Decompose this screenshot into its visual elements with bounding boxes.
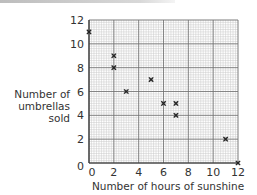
y-tick-label: 10	[70, 38, 84, 51]
y-tick-label: 4	[77, 109, 84, 122]
data-point	[149, 77, 153, 81]
data-point	[174, 101, 178, 105]
scatter-chart: 024681012024681012	[0, 0, 257, 195]
x-tick-label: 0	[89, 166, 96, 179]
data-point	[124, 89, 128, 93]
data-point	[112, 65, 116, 69]
y-tick-label: 0	[77, 160, 84, 173]
x-tick-label: 4	[135, 166, 142, 179]
data-point	[161, 101, 165, 105]
x-tick-label: 12	[231, 166, 245, 179]
data-point	[87, 30, 91, 34]
y-tick-label: 6	[77, 86, 84, 99]
data-point	[174, 113, 178, 117]
y-tick-label: 12	[70, 14, 84, 27]
x-tick-label: 10	[206, 166, 220, 179]
y-tick-label: 2	[77, 133, 84, 146]
x-tick-label: 6	[160, 166, 167, 179]
data-point	[236, 161, 240, 165]
x-tick-label: 8	[185, 166, 192, 179]
data-point	[223, 137, 227, 141]
y-tick-label: 8	[77, 62, 84, 75]
x-tick-label: 2	[110, 166, 117, 179]
data-point	[112, 54, 116, 58]
